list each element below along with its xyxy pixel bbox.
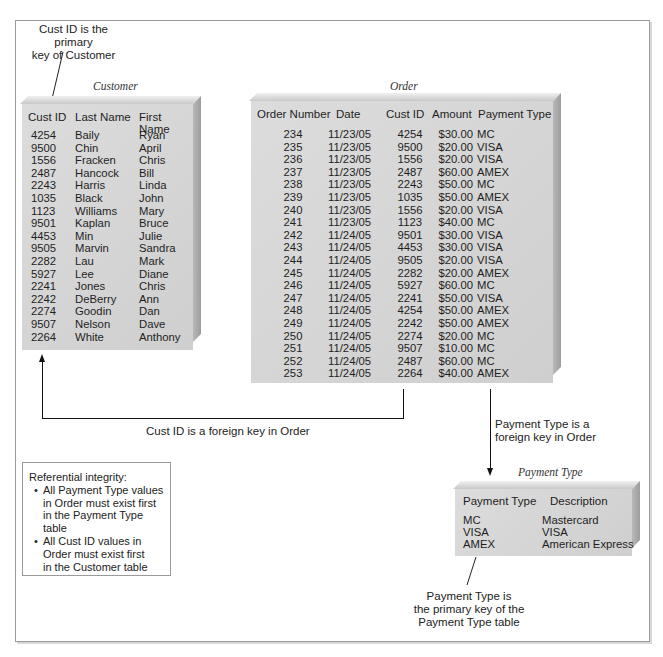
payment-pk-note: Payment Type is the primary key of the P… [404,590,534,629]
payment-pk-leader-line [0,0,663,657]
